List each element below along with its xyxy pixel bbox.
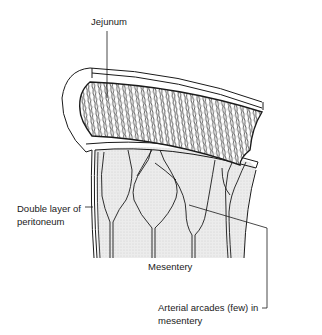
label-double-layer-peritoneum: Double layer of peritoneum xyxy=(17,203,81,228)
label-arcades-line1: Arterial arcades (few) in xyxy=(158,302,258,315)
label-arterial-arcades: Arterial arcades (few) in mesentery xyxy=(158,302,258,327)
label-jejunum: Jejunum xyxy=(91,16,127,29)
label-peritoneum-line2: peritoneum xyxy=(17,216,81,229)
label-peritoneum-line1: Double layer of xyxy=(17,203,81,216)
diagram-illustration xyxy=(0,0,322,335)
label-arcades-line2: mesentery xyxy=(158,315,258,328)
label-mesentery: Mesentery xyxy=(148,261,192,274)
jejunum-diagram: Jejunum Double layer of peritoneum Mesen… xyxy=(0,0,322,335)
